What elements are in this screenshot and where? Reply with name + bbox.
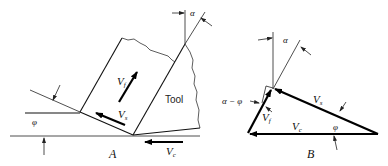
chip-left-edge: [80, 38, 122, 112]
vc-label-a: Vc: [166, 145, 177, 159]
tool-flank-line: [133, 128, 200, 135]
vf-label-a: Vf: [117, 75, 127, 89]
alpha-arrow-right-a: [201, 18, 212, 26]
alpha-label-b: α: [283, 35, 288, 45]
rake-extension-b: [273, 40, 300, 89]
figure-a: φ α Vf Vs Vc Tool A: [10, 8, 212, 161]
shear-plane-extension: [30, 90, 80, 112]
orthogonal-cutting-diagram: φ α Vf Vs Vc Tool A α Vs Vf Vc φ: [0, 0, 388, 166]
vf-label-b: Vf: [262, 111, 272, 125]
vc-label-b: Vc: [292, 120, 303, 134]
tool-back-edge: [185, 44, 200, 128]
caption-b: B: [307, 147, 315, 161]
vs-vector-b: [275, 89, 378, 134]
phi-label-b: φ: [333, 122, 338, 132]
phi-label-a: φ: [32, 117, 37, 127]
chip-top-edge: [122, 38, 175, 62]
tool-rake-face: [133, 44, 185, 135]
phi-arrow-top-b: [340, 102, 346, 111]
alpha-minus-phi-label: α − φ: [222, 96, 242, 106]
tool-label: Tool: [165, 94, 183, 105]
alpha-arrow-left-b: [258, 38, 272, 40]
phi-arrow-bottom-b: [334, 136, 337, 150]
caption-a: A: [108, 147, 117, 161]
rake-extension-a: [185, 12, 205, 44]
alpha-label-a: α: [190, 8, 195, 18]
vs-label-b: Vs: [313, 93, 323, 107]
alpha-arrow-right-b: [301, 47, 311, 55]
alpha-minus-phi-arrow-left: [250, 101, 259, 103]
phi-arrow-top: [53, 85, 60, 100]
vs-label-a: Vs: [118, 108, 128, 122]
figure-b: α Vs Vf Vc φ α − φ B: [222, 32, 378, 161]
